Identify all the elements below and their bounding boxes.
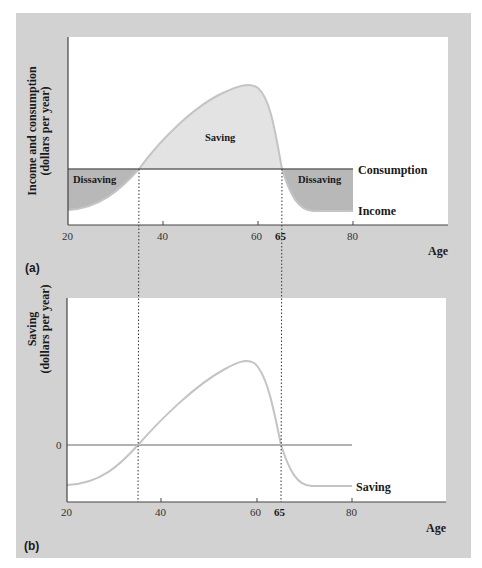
- y-axis-label-a-line1: Income and consumption: [25, 66, 39, 196]
- tick-label-20-a: 20: [62, 230, 74, 242]
- zero-tick-label: 0: [56, 439, 62, 451]
- saving-label: Saving: [205, 132, 236, 143]
- dissaving-label-left: Dissaving: [73, 174, 117, 185]
- plot-area-b: [67, 298, 446, 502]
- saving-curve-label: Saving: [356, 480, 391, 494]
- chart-b: 20 40 60 65 80 0 Saving Age Saving (doll…: [24, 284, 447, 553]
- panel-tag-a: (a): [25, 261, 40, 275]
- y-axis-label-b-line1: Saving: [25, 312, 39, 347]
- tick-label-80-a: 80: [347, 230, 359, 242]
- x-axis-label-a: Age: [428, 244, 449, 258]
- tick-label-20-b: 20: [61, 506, 73, 518]
- consumption-label: Consumption: [358, 163, 428, 177]
- y-axis-label-b-line2: (dollars per year): [38, 284, 52, 373]
- tick-label-40-b: 40: [155, 506, 167, 518]
- tick-label-60-a: 60: [251, 230, 263, 242]
- y-axis-label-a-line2: (dollars per year): [38, 86, 52, 175]
- income-label: Income: [358, 204, 397, 218]
- life-cycle-figure: 20 40 60 65 80 Dissaving Saving Dissavin…: [0, 0, 482, 568]
- tick-label-80-b: 80: [346, 506, 358, 518]
- tick-label-65-b: 65: [274, 506, 286, 518]
- tick-label-60-b: 60: [250, 506, 262, 518]
- tick-label-65-a: 65: [275, 230, 287, 242]
- chart-a: 20 40 60 65 80 Dissaving Saving Dissavin…: [25, 37, 449, 275]
- panel-tag-b: (b): [24, 539, 39, 553]
- dissaving-label-right: Dissaving: [298, 174, 342, 185]
- x-axis-label-b: Age: [426, 521, 447, 535]
- tick-label-40-a: 40: [157, 230, 169, 242]
